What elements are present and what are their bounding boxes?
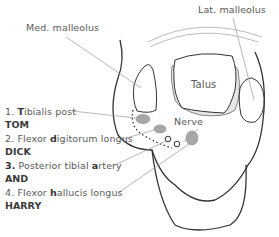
mnemonic-harry: HARRY bbox=[5, 200, 41, 211]
lateral-malleolus-shape bbox=[239, 78, 264, 122]
label-med-malleolus: Med. malleolus bbox=[26, 22, 99, 33]
mnemonic-tom: TOM bbox=[5, 119, 29, 130]
mnemonic-dick: DICK bbox=[5, 146, 31, 157]
structure-3-label: 3. Posterior tibial artery bbox=[5, 160, 122, 171]
heel-outline bbox=[152, 150, 246, 230]
mnemonic-and: AND bbox=[5, 173, 28, 184]
ankle-cross-section-diagram bbox=[0, 0, 279, 237]
vein-circle bbox=[174, 141, 180, 147]
label-nerve: Nerve bbox=[174, 116, 203, 127]
retinaculum-arc bbox=[148, 27, 262, 42]
structure-2-label: 2. Flexor digitorum longus bbox=[5, 133, 133, 144]
label-lat-malleolus: Lat. malleolus bbox=[198, 4, 266, 15]
medial-malleolus-shape bbox=[133, 65, 156, 113]
structure-1-label: 1. Tibialis post bbox=[5, 106, 76, 117]
label-talus: Talus bbox=[191, 79, 216, 90]
structure-4-label: 4. Flexor hallucis longus bbox=[5, 187, 123, 198]
tibialis-posterior-tendon bbox=[136, 115, 150, 124]
artery-circle bbox=[165, 136, 171, 142]
flexor-digitorum-tendon bbox=[154, 125, 166, 133]
